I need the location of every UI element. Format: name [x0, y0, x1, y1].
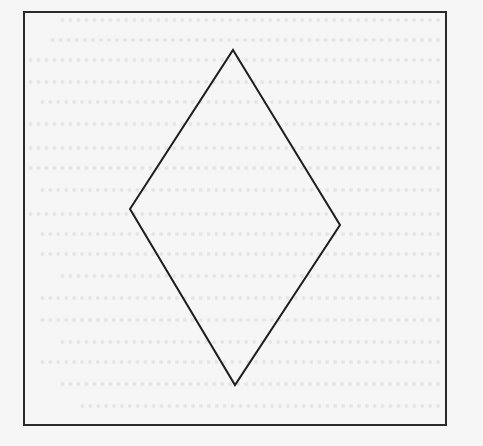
geometric-figure	[0, 0, 483, 446]
rectangular-frame	[24, 12, 446, 425]
document-page	[0, 0, 483, 446]
rhombus-shape	[130, 50, 340, 385]
